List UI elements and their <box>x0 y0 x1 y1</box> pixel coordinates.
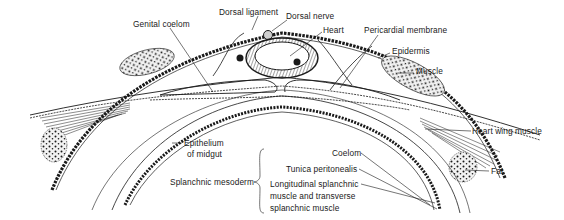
label-epithelium-line2: of midgut <box>187 150 222 158</box>
label-heart: Heart <box>323 26 344 34</box>
label-pericardial-membrane: Pericardial membrane <box>364 26 447 34</box>
label-epidermis: Epidermis <box>392 47 430 55</box>
label-heart-wing-muscle: Heart wing muscle <box>472 127 542 135</box>
label-dorsal-ligament: Dorsal ligament <box>219 8 278 16</box>
label-tunica-peritonealis: Tunica peritonealis <box>286 165 357 173</box>
label-muscle: Muscle <box>416 67 443 75</box>
label-epithelium-line1: Epithelium <box>184 139 224 147</box>
label-genital-coelom: Genital coelom <box>133 20 190 28</box>
label-coelom: Coelom <box>332 149 361 157</box>
label-fat: Fat <box>491 167 503 175</box>
fat-body-right <box>449 152 477 182</box>
label-longitudinal-line1: Longitudinal splanchnic <box>270 180 359 188</box>
fat-body-left <box>41 128 67 162</box>
dorsal-nerve-shape <box>264 31 273 40</box>
label-longitudinal-line3: splanchnic muscle <box>270 204 340 212</box>
label-dorsal-nerve: Dorsal nerve <box>286 12 334 20</box>
label-longitudinal-line2: muscle and transverse <box>270 192 356 200</box>
label-splanchnic-mesoderm: Splanchnic mesoderm <box>170 178 254 186</box>
